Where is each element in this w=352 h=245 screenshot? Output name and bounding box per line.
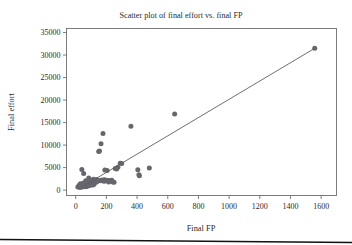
y-tick-label: 30000 <box>41 51 61 60</box>
y-tick-label: 25000 <box>41 73 61 82</box>
data-point <box>97 148 102 153</box>
x-tick-label: 1400 <box>282 202 298 211</box>
data-point <box>172 112 177 117</box>
y-tick-label: 10000 <box>41 141 61 150</box>
chart-title: Scatter plot of final effort vs. final F… <box>119 11 243 20</box>
x-tick-label: 1200 <box>252 202 268 211</box>
y-tick-label: 15000 <box>41 118 61 127</box>
x-tick-label: 600 <box>162 202 174 211</box>
y-tick-label: 0 <box>57 186 61 195</box>
data-point <box>128 124 133 129</box>
x-axis-title: Final FP <box>187 224 216 233</box>
y-tick-label: 5000 <box>45 163 61 172</box>
y-tick-label: 35000 <box>41 28 61 37</box>
data-point <box>99 141 104 146</box>
data-point <box>147 166 152 171</box>
data-point <box>112 180 117 185</box>
chart-canvas: Scatter plot of final effort vs. final F… <box>0 0 352 245</box>
data-point <box>81 171 86 176</box>
data-point <box>137 173 142 178</box>
x-tick-label: 1600 <box>313 202 329 211</box>
x-tick-label: 800 <box>192 202 204 211</box>
data-point <box>101 131 106 136</box>
scatter-plot-figure: Scatter plot of final effort vs. final F… <box>0 0 352 245</box>
x-tick-label: 200 <box>100 202 112 211</box>
y-axis-title: Final effort <box>7 92 16 130</box>
data-point <box>135 167 140 172</box>
y-tick-label: 20000 <box>41 96 61 105</box>
x-tick-label: 1000 <box>221 202 237 211</box>
x-tick-label: 400 <box>131 202 143 211</box>
x-tick-label: 0 <box>74 202 78 211</box>
